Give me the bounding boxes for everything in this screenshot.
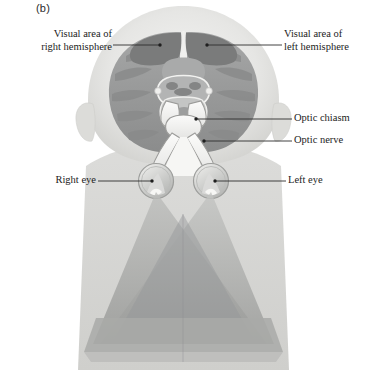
callout-right-eye: Right eye [28, 174, 96, 187]
callout-visual-area-right-hemisphere: Visual area of right hemisphere [8, 28, 112, 53]
peduncle-dot-right [155, 88, 162, 95]
callout-optic-chiasm: Optic chiasm [294, 112, 366, 125]
right-ear [76, 103, 95, 141]
dot-optic-nerve [202, 139, 205, 142]
callout-visual-area-left-hemisphere: Visual area of left hemisphere [284, 28, 364, 53]
callout-optic-nerve: Optic nerve [294, 134, 364, 147]
dot-optic-chiasm [194, 117, 197, 120]
left-ear [272, 103, 291, 141]
peduncle-dot-left [206, 88, 213, 95]
figure-panel-b: (b) Visual area of right hemisphere Visu… [0, 0, 367, 370]
projection-surface-band [84, 318, 283, 352]
dot-right-eye [150, 179, 153, 182]
dot-visual-area-right [158, 43, 161, 46]
panel-label: (b) [36, 2, 50, 14]
dot-visual-area-left [205, 43, 208, 46]
projection-surface-base [84, 352, 283, 362]
dot-left-eye [213, 179, 216, 182]
callout-left-eye: Left eye [288, 174, 348, 187]
